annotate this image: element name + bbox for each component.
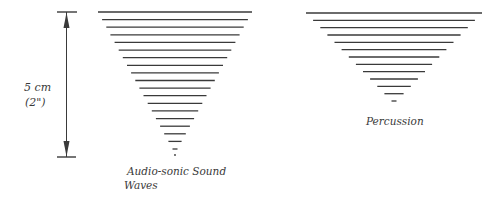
audio-sonic-caption-line-1: Audio-sonic Sound: [126, 165, 226, 177]
sound-wave-diagram: 5 cm (2") Audio-sonic Sound Waves Percus…: [0, 0, 501, 207]
arrowhead-down-icon: [64, 141, 70, 157]
dimension-alt-label: (2"): [25, 96, 46, 109]
arrowhead-up-icon: [64, 13, 70, 29]
audio-sonic-wave-triangle: [98, 12, 252, 156]
percussion-wave-triangle: [306, 13, 482, 101]
audio-sonic-caption-line-2: Waves: [124, 179, 158, 191]
dimension-arrow: [57, 12, 77, 157]
wave-end-dot: [174, 154, 176, 156]
dimension-value-label: 5 cm: [24, 81, 51, 94]
percussion-caption: Percussion: [365, 115, 424, 127]
